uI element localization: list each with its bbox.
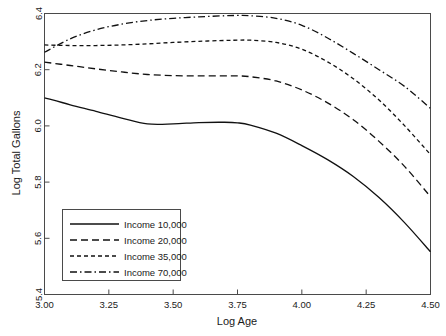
y-tick-label: 6.4 [33,7,44,20]
legend-label: Income 20,000 [124,235,187,246]
x-axis-ticks [45,290,431,295]
x-tick-label: 4.25 [357,299,376,310]
chart-legend: Income 10,000Income 20,000Income 35,000I… [63,210,187,281]
y-tick-label: 6.0 [33,119,44,132]
x-tick-label: 3.75 [228,299,247,310]
line-chart: 3.003.253.503.754.004.254.50 6.46.26.05.… [0,0,446,336]
series-line [45,15,431,108]
y-tick-label: 5.6 [33,232,44,245]
series-line [45,40,431,155]
legend-label: Income 10,000 [124,219,187,230]
x-tick-label: 3.25 [100,299,119,310]
y-axis-ticks [45,14,50,295]
y-tick-label: 6.2 [33,63,44,76]
y-axis-tick-labels: 6.46.26.05.85.65.4 [33,7,44,301]
y-tick-label: 5.8 [33,175,44,188]
x-tick-label: 3.50 [164,299,183,310]
x-tick-label: 4.50 [421,299,440,310]
x-axis-title: Log Age [217,315,257,327]
legend-label: Income 35,000 [124,251,187,262]
chart-figure: 3.003.253.503.754.004.254.50 6.46.26.05.… [0,0,446,336]
series-line [45,62,431,197]
y-axis-title: Log Total Gallons [10,110,22,195]
legend-label: Income 70,000 [124,267,187,278]
x-tick-label: 4.00 [293,299,312,310]
y-tick-label: 5.4 [33,288,44,301]
x-axis-tick-labels: 3.003.253.503.754.004.254.50 [35,299,440,310]
